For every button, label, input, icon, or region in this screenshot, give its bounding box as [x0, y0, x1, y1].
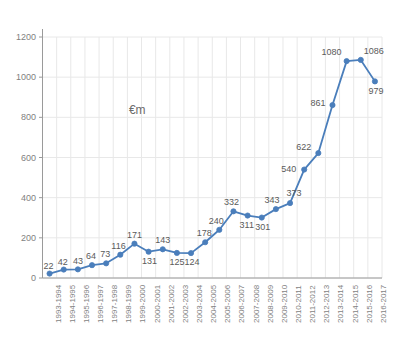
data-point-label: 22: [44, 261, 54, 271]
x-tick-label: 2007-2008: [252, 285, 261, 323]
data-point-label: 1086: [364, 46, 384, 56]
data-point-label: 143: [155, 235, 170, 245]
x-tick-label: 2006-2007: [237, 285, 246, 323]
data-point-label: 311: [240, 220, 254, 230]
tick-marks: [39, 37, 43, 278]
data-point-label: 171: [127, 230, 142, 240]
data-point-label: 861: [311, 98, 326, 108]
data-point-label: 979: [368, 86, 383, 96]
x-tick-label: 2011-2012: [308, 285, 317, 323]
data-point-label: 178: [197, 228, 212, 238]
data-point-label: 373: [287, 188, 302, 198]
data-point-marker: [47, 271, 52, 276]
data-point-label: 343: [264, 195, 279, 205]
data-point-marker: [104, 261, 109, 266]
x-tick-label: 1997-1998: [110, 285, 119, 323]
x-tick-label: 1993-1994: [54, 285, 63, 323]
x-tick-label: 2005-2006: [223, 285, 232, 323]
y-tick-label: 400: [2, 193, 36, 203]
y-tick-label: 0: [2, 273, 36, 283]
x-tick-label: 2013-2014: [336, 285, 345, 323]
data-point-marker: [174, 250, 179, 255]
data-point-marker: [160, 247, 165, 252]
data-point-marker: [330, 102, 335, 107]
data-point-label: 332: [224, 197, 239, 207]
data-point-marker: [61, 267, 66, 272]
data-point-label: 42: [58, 257, 68, 267]
data-point-marker: [118, 252, 123, 257]
data-point-label: 1080: [322, 47, 342, 57]
y-tick-label: 1000: [2, 72, 36, 82]
data-point-marker: [245, 213, 250, 218]
data-point-marker: [132, 241, 137, 246]
data-point-label: 622: [296, 142, 311, 152]
data-point-marker: [273, 207, 278, 212]
x-tick-label: 2012-2013: [322, 285, 331, 323]
data-point-marker: [231, 209, 236, 214]
data-point-marker: [358, 57, 363, 62]
data-point-label: 116: [111, 241, 125, 251]
x-tick-label: 2002-2003: [181, 285, 190, 323]
data-point-marker: [287, 200, 292, 205]
x-tick-label: 2009-2010: [280, 285, 289, 323]
data-point-label: 64: [86, 251, 96, 261]
x-tick-label: 2003-2004: [195, 285, 204, 323]
data-point-marker: [217, 227, 222, 232]
data-point-label: 43: [73, 256, 83, 266]
x-tick-label: 1998-1999: [124, 285, 133, 323]
x-tick-label: 1994-1995: [68, 285, 77, 323]
data-point-marker: [146, 249, 151, 254]
y-tick-label: 800: [2, 112, 36, 122]
data-point-label: 125: [169, 257, 184, 267]
y-tick-label: 600: [2, 153, 36, 163]
x-tick-label: 2001-2002: [167, 285, 176, 323]
x-tick-label: 2008-2009: [266, 285, 275, 323]
data-point-marker: [89, 263, 94, 268]
x-tick-label: 1996-1997: [96, 285, 105, 323]
data-point-label: 124: [185, 257, 200, 267]
unit-annotation: €m: [129, 103, 146, 117]
data-point-marker: [188, 251, 193, 256]
x-tick-label: 2000-2001: [153, 285, 162, 323]
data-point-marker: [372, 79, 377, 84]
x-tick-label: 2004-2005: [209, 285, 218, 323]
x-tick-label: 2016-2017: [379, 285, 388, 323]
data-point-label: 540: [281, 164, 296, 174]
data-point-label: 240: [209, 216, 224, 226]
data-point-marker: [316, 150, 321, 155]
data-point-label: 73: [100, 249, 110, 259]
x-tick-label: 2010-2011: [294, 285, 303, 323]
data-point-marker: [302, 167, 307, 172]
data-point-label: 301: [255, 222, 270, 232]
data-point-marker: [75, 267, 80, 272]
line-chart: 020040060080010001200 1993-19941994-1995…: [0, 0, 393, 345]
x-tick-label: 1999-2000: [138, 285, 147, 323]
x-tick-label: 2014-2015: [351, 285, 360, 323]
data-point-marker: [203, 240, 208, 245]
y-tick-label: 1200: [2, 32, 36, 42]
data-point-marker: [259, 215, 264, 220]
data-point-marker: [344, 59, 349, 64]
x-tick-label: 2015-2016: [365, 285, 374, 323]
data-point-label: 131: [142, 256, 157, 266]
x-tick-label: 1995-1996: [82, 285, 91, 323]
y-tick-label: 200: [2, 233, 36, 243]
